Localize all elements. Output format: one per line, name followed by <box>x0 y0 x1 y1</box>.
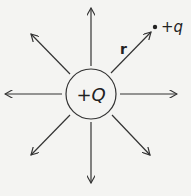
field-arrow-down-left <box>31 115 70 155</box>
field-diagram: +Q +q r <box>0 0 191 196</box>
field-arrow-up-left <box>31 34 70 74</box>
test-charge-dot <box>153 25 157 29</box>
field-arrow-up-right <box>111 32 151 73</box>
field-arrow-down-right <box>112 115 150 155</box>
distance-label: r <box>120 41 127 57</box>
test-charge-label: +q <box>161 18 183 36</box>
center-charge-label: +Q <box>76 84 105 105</box>
